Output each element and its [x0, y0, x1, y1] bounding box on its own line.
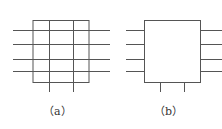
panel-b-box [145, 21, 201, 83]
panel-a-figure [13, 20, 110, 92]
diagram-canvas [0, 0, 222, 129]
panel-a-label: （a） [43, 102, 72, 118]
panel-b-figure [126, 21, 222, 93]
panel-b-label: （b） [154, 102, 183, 118]
panel-a-box [33, 21, 89, 83]
